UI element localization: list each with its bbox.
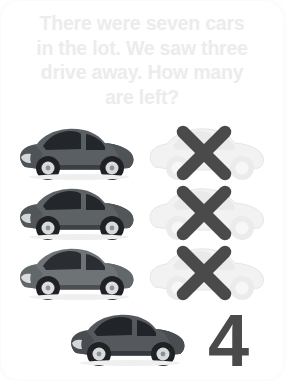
car-driven-away-2 [143, 184, 271, 242]
beetle-car-icon [13, 244, 141, 302]
worksheet-card: There were seven cars in the lot. We saw… [0, 0, 284, 381]
word-problem-prompt: There were seven cars in the lot. We saw… [6, 11, 278, 109]
answer-number: 4 [186, 304, 270, 378]
answer-row: 4 [0, 304, 284, 378]
car-row-1 [0, 124, 284, 182]
cross-out-x-icon [173, 125, 235, 181]
cross-out-x-icon [173, 185, 235, 241]
car-driven-away-1 [143, 124, 271, 182]
car-row-2 [0, 184, 284, 242]
beetle-car-icon [13, 184, 141, 242]
beetle-car-icon [64, 310, 192, 368]
car-row-3 [0, 244, 284, 302]
car-remaining-3 [13, 244, 141, 302]
car-driven-away-3 [143, 244, 271, 302]
car-remaining-2 [13, 184, 141, 242]
cross-out-x-icon [173, 245, 235, 301]
beetle-car-icon [13, 124, 141, 182]
car-remaining-1 [13, 124, 141, 182]
